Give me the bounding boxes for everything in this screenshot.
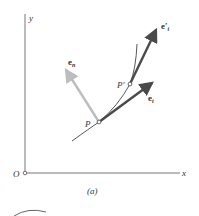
point-p-prime-label: P′	[116, 80, 125, 90]
en-label: en	[68, 57, 76, 68]
point-p-prime	[128, 82, 132, 86]
figure-caption: (a)	[87, 186, 98, 196]
tangent-vector-et	[99, 83, 152, 122]
tangent-vector-et-prime	[130, 30, 156, 84]
origin-point	[23, 171, 27, 175]
et-prime-label: e′t	[161, 21, 170, 32]
origin-label: O	[13, 169, 20, 179]
partial-arc	[14, 210, 46, 216]
diagram-svg: y x O P P′ en et e′t (a)	[0, 0, 199, 216]
path-coordinates-diagram: y x O P P′ en et e′t (a)	[0, 0, 199, 216]
normal-vector-en	[66, 70, 99, 122]
y-axis-label: y	[28, 13, 33, 23]
et-label: et	[148, 93, 154, 104]
x-axis-label: x	[181, 168, 186, 178]
path-curve	[72, 44, 137, 141]
point-p	[97, 120, 101, 124]
point-p-label: P	[84, 119, 91, 129]
